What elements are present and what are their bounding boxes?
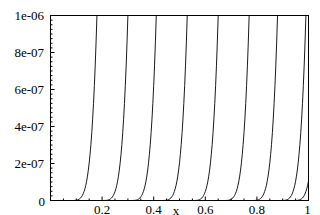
curve-1	[51, 16, 97, 201]
x-tick-label: 0.4	[146, 202, 163, 215]
y-tick-label: 2e-07	[14, 156, 44, 171]
plot-curves	[51, 16, 309, 201]
line-chart: 02e-074e-076e-078e-071e-06 0.20.40.60.81…	[0, 0, 320, 215]
x-tick-label: 0.6	[197, 202, 214, 215]
curve-2	[51, 16, 128, 201]
curve-3	[51, 16, 157, 201]
y-tick-label: 4e-07	[14, 119, 44, 134]
x-tick-label: 0.8	[249, 202, 265, 215]
y-axis-ticks	[51, 16, 55, 201]
y-axis-labels: 02e-074e-076e-078e-071e-06	[14, 8, 45, 209]
curve-6	[51, 16, 250, 201]
x-axis-title: x	[173, 203, 180, 215]
x-axis-labels: 0.20.40.60.81	[94, 202, 311, 215]
y-tick-label: 1e-06	[14, 8, 44, 23]
y-tick-label: 6e-07	[14, 82, 44, 97]
curve-7	[51, 16, 278, 201]
y-tick-label: 0	[39, 194, 46, 209]
x-tick-label: 1	[304, 202, 311, 215]
curve-9	[51, 181, 309, 200]
x-tick-label: 0.2	[94, 202, 110, 215]
x-axis-ticks	[51, 197, 309, 201]
y-tick-label: 8e-07	[14, 45, 44, 60]
curve-5	[51, 16, 219, 201]
